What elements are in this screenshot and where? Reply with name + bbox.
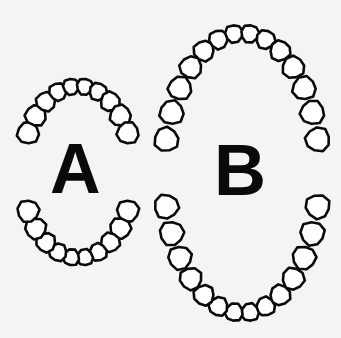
tooth-upper (305, 127, 329, 151)
tooth-lower (155, 195, 179, 219)
arch-a-label: A (50, 134, 101, 204)
tooth-upper (155, 127, 179, 151)
tooth-lower (306, 196, 330, 220)
tooth-upper (159, 100, 183, 124)
tooth-upper (168, 77, 192, 99)
tooth-upper (225, 25, 243, 43)
tooth-upper (300, 101, 324, 124)
tooth-lower (293, 247, 317, 269)
tooth-upper (292, 76, 316, 99)
tooth-lower (168, 247, 192, 270)
tooth-lower (160, 222, 184, 245)
tooth-upper (283, 56, 304, 78)
tooth-lower (300, 222, 324, 246)
tooth-lower (180, 268, 201, 290)
dental-arches-figure: A B (0, 0, 341, 338)
tooth-lower (18, 201, 40, 222)
tooth-lower (241, 303, 259, 321)
tooth-upper (116, 122, 138, 143)
arch-b-label: B (214, 134, 266, 206)
